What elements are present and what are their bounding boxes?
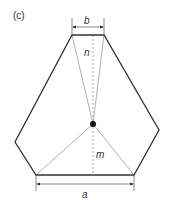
hexagon-diagram: (c) b n m a	[0, 0, 169, 208]
left-upper-ray	[72, 35, 93, 124]
b-arrow-right-icon	[100, 26, 104, 29]
b-arrow-left-icon	[72, 26, 76, 29]
a-arrow-right-icon	[130, 183, 134, 186]
right-upper-ray	[93, 35, 104, 124]
diagram-canvas: (c) b n m a	[0, 0, 169, 208]
m-label: m	[96, 149, 104, 160]
panel-label: (c)	[13, 10, 25, 21]
left-lower-ray	[36, 124, 93, 175]
a-label: a	[82, 189, 88, 200]
a-arrow-left-icon	[36, 183, 40, 186]
b-label: b	[84, 15, 90, 26]
center-point	[90, 121, 96, 127]
n-label: n	[84, 47, 90, 58]
